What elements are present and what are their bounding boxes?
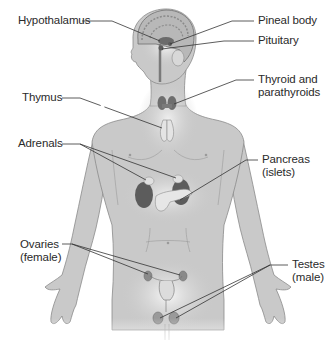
label-adrenals: Adrenals bbox=[18, 137, 63, 150]
label-pituitary: Pituitary bbox=[258, 34, 299, 47]
label-testes: Testes (male) bbox=[292, 258, 325, 284]
label-hypothalamus: Hypothalamus bbox=[18, 14, 90, 27]
label-pineal-body: Pineal body bbox=[258, 14, 317, 27]
label-ovaries: Ovaries (female) bbox=[20, 238, 61, 264]
label-pancreas: Pancreas (islets) bbox=[262, 153, 310, 179]
thymus-gland bbox=[160, 120, 173, 141]
bottom-fade bbox=[0, 318, 336, 354]
label-thymus: Thymus bbox=[22, 91, 62, 104]
label-thyroid-and-parathyroids: Thyroid and parathyroids bbox=[258, 73, 320, 99]
